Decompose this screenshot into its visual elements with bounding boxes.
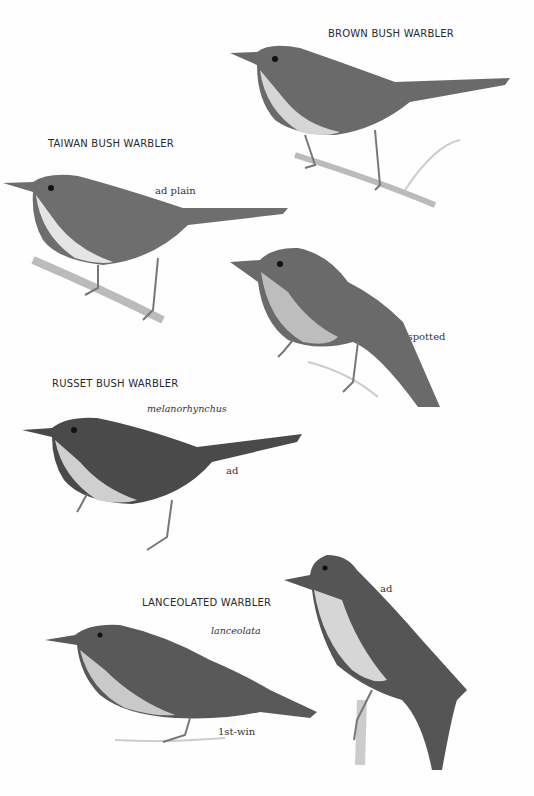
- species-title-brown-bush-warbler: BROWN BUSH WARBLER: [328, 28, 454, 39]
- illustration-plate: BROWN BUSH WARBLER TAIWAN BUSH WARBLER a…: [0, 0, 534, 796]
- lanceolated-warbler-1st-win-illustration: [45, 620, 325, 755]
- species-title-taiwan-bush-warbler: TAIWAN BUSH WARBLER: [48, 138, 174, 149]
- species-title-lanceolated-warbler: LANCEOLATED WARBLER: [142, 597, 271, 608]
- species-title-russet-bush-warbler: RUSSET BUSH WARBLER: [52, 378, 178, 389]
- russet-bush-warbler-illustration: [22, 412, 312, 562]
- taiwan-bush-warbler-spotted-illustration: [228, 242, 448, 417]
